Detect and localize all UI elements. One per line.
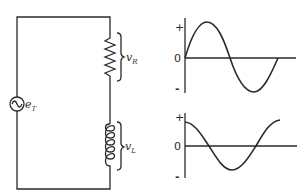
circuit-diagram: eT vR vL + 0 - + 0 -: [0, 0, 307, 196]
bottom-graph-cosine-curve: [185, 120, 280, 170]
top-graph-sine-curve: [185, 22, 278, 92]
inductor-voltage-label: vL: [125, 140, 136, 155]
resistor-voltage-brace: [117, 33, 124, 81]
source-label: eT: [25, 98, 38, 113]
top-graph-plus-label: +: [175, 21, 184, 34]
top-graph-zero-label: 0: [174, 52, 181, 65]
inductor-voltage-brace: [117, 122, 124, 170]
top-graph-minus-label: -: [175, 82, 180, 95]
bottom-graph-plus-label: +: [175, 111, 184, 124]
inductor-icon: [106, 124, 115, 167]
resistor-icon: [105, 34, 115, 78]
resistor-voltage-label: vR: [126, 51, 138, 66]
ac-source-icon: [10, 97, 24, 111]
bottom-graph-minus-label: -: [175, 170, 180, 183]
bottom-graph-zero-label: 0: [174, 140, 181, 153]
bottom-graph-axes: [185, 113, 297, 178]
